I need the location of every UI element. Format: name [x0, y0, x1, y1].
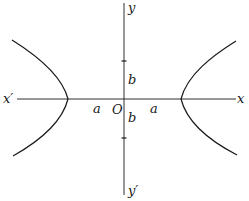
label-b-top: b — [128, 73, 136, 86]
label-a-left: a — [93, 102, 101, 115]
label-y-prime: y′ — [128, 184, 138, 197]
label-a-right: a — [150, 102, 158, 115]
label-x-prime: x′ — [3, 92, 13, 105]
label-origin: O — [112, 103, 123, 116]
label-b-bottom: b — [128, 111, 136, 124]
label-x: x — [237, 92, 244, 105]
hyperbola-diagram — [0, 0, 249, 201]
hyperbola-right-branch — [181, 41, 237, 155]
label-y: y — [128, 1, 135, 14]
hyperbola-left-branch — [12, 40, 68, 156]
